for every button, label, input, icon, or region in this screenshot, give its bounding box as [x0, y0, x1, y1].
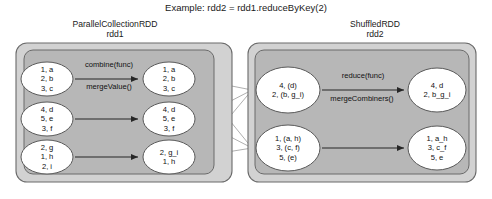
partition-combined-2: 4, d 5, e 3, f — [144, 105, 194, 133]
cell-line: 2, b — [144, 74, 194, 83]
cell-line: 5, e — [22, 114, 72, 123]
cell-line: 4, (d) — [258, 81, 318, 90]
diagram-canvas — [0, 0, 492, 199]
diagram-root: Example: rdd2 = rdd1.reduceByKey(2) Para… — [0, 0, 492, 199]
cell-line: 3, f — [22, 124, 72, 133]
cell-line: 2, (b, g_i) — [258, 90, 318, 99]
operation-label-reduce: reduce(func) — [328, 71, 398, 80]
partition-shuffled-2: 1, (a, h) 3, (c, f) 5, (e) — [258, 134, 318, 162]
cell-line: 1, h — [22, 152, 72, 161]
cell-line: 4, d — [409, 81, 465, 90]
cell-line: 3, (c, f) — [258, 143, 318, 152]
partition-input-2: 4, d 5, e 3, f — [22, 105, 72, 133]
cell-line: 5, e — [144, 114, 194, 123]
cell-line: 1, (a, h) — [258, 134, 318, 143]
cell-line: 2, g_i — [144, 148, 194, 157]
partition-input-1: 1, a 2, b 3, c — [22, 65, 72, 93]
cell-line: 4, d — [144, 105, 194, 114]
cell-line: 4, d — [22, 105, 72, 114]
cell-line: 5, (e) — [258, 153, 318, 162]
cell-line: 2, b_g_i — [409, 90, 465, 99]
operation-label-merge-combiners: mergeCombiners() — [318, 94, 406, 103]
partition-reduced-1: 4, d 2, b_g_i — [409, 81, 465, 100]
cell-line: 5, e — [409, 153, 465, 162]
cell-line: 3, c — [22, 84, 72, 93]
operation-label-combine: combine(func) — [78, 60, 140, 69]
cell-line: 1, a_h — [409, 134, 465, 143]
partition-input-3: 2, g 1, h 2, i — [22, 143, 72, 171]
cell-line: 3, c — [144, 84, 194, 93]
partition-combined-1: 1, a 2, b 3, c — [144, 65, 194, 93]
cell-line: 2, i — [22, 162, 72, 171]
partition-shuffled-1: 4, (d) 2, (b, g_i) — [258, 81, 318, 100]
cell-line: 2, g — [22, 143, 72, 152]
partition-reduced-2: 1, a_h 3, c_f 5, e — [409, 134, 465, 162]
operation-label-merge-value: mergeValue() — [78, 82, 140, 91]
cell-line: 2, b — [22, 74, 72, 83]
cell-line: 1, a — [144, 65, 194, 74]
cell-line: 3, c_f — [409, 143, 465, 152]
cell-line: 3, f — [144, 124, 194, 133]
partition-combined-3: 2, g_i 1, h — [144, 148, 194, 167]
cell-line: 1, h — [144, 157, 194, 166]
cell-line: 1, a — [22, 65, 72, 74]
